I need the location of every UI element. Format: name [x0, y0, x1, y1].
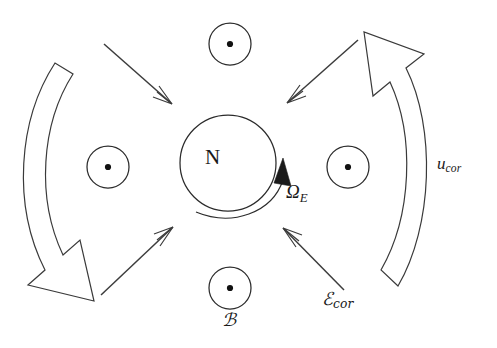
magnetic-field-label: ℬ — [222, 311, 236, 329]
field-arrow-lower-right — [283, 228, 344, 290]
rotation-rate-subscript: E — [300, 190, 308, 205]
diagram-vector-layer — [0, 0, 497, 348]
field-arrow-upper-left — [104, 44, 172, 104]
corotation-field-subscript: cor — [333, 297, 354, 311]
central-body-circle — [180, 115, 276, 211]
magnetic-field-marker-left — [87, 146, 129, 188]
magnetic-field-marker-right — [327, 146, 369, 188]
field-arrow-lower-left — [101, 227, 173, 295]
magnetic-field-marker-bottom — [209, 267, 251, 309]
corotation-arrow-left — [23, 63, 94, 301]
magnetic-field-marker-top — [209, 23, 251, 65]
field-arrow-upper-right — [287, 40, 358, 103]
corotation-velocity-label: ucor — [437, 155, 462, 175]
rotation-rate-label: ΩE — [286, 182, 308, 205]
central-body-label: N — [205, 147, 220, 168]
corotation-arrow-right — [364, 32, 427, 286]
corotation-field-label: ℰcor — [322, 290, 354, 311]
physics-diagram-canvas: N ΩE ucor ℰcor ℬ — [0, 0, 497, 348]
corotation-velocity-subscript: cor — [446, 162, 462, 175]
corotation-velocity-symbol: u — [437, 154, 446, 173]
rotation-rate-symbol: Ω — [286, 181, 300, 202]
corotation-field-symbol: ℰ — [322, 288, 333, 309]
